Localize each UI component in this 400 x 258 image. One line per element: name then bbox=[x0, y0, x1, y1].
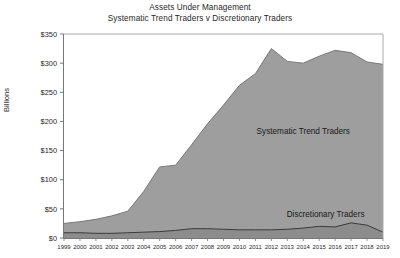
y-tick-label: $250 bbox=[41, 88, 57, 97]
x-tick-label: 2000 bbox=[73, 244, 87, 250]
series-annotation-label: Systematic Trend Traders bbox=[257, 127, 350, 136]
chart-container: Assets Under Management Systematic Trend… bbox=[0, 0, 400, 258]
x-tick-label: 2018 bbox=[360, 244, 374, 250]
x-tick-label: 2010 bbox=[233, 244, 247, 250]
x-tick-label: 2003 bbox=[121, 244, 135, 250]
x-tick-label: 2007 bbox=[185, 244, 199, 250]
x-tick-label: 2005 bbox=[153, 244, 167, 250]
x-tick-label: 2014 bbox=[297, 244, 311, 250]
chart-plot-area: $0$50$100$150$200$250$300$350 1999200020… bbox=[0, 0, 400, 258]
y-tick-label: $0 bbox=[49, 234, 57, 243]
y-tick-label: $300 bbox=[41, 59, 57, 68]
x-tick-label: 2004 bbox=[137, 244, 151, 250]
x-tick-label: 2008 bbox=[201, 244, 215, 250]
y-tick-label: $100 bbox=[41, 175, 57, 184]
x-tick-label: 1999 bbox=[57, 244, 71, 250]
y-tick-label: $350 bbox=[41, 30, 57, 39]
x-tick-label: 2015 bbox=[313, 244, 327, 250]
x-tick-label: 2016 bbox=[328, 244, 342, 250]
x-tick-label: 2012 bbox=[265, 244, 279, 250]
x-tick-label: 2019 bbox=[376, 244, 390, 250]
x-tick-label: 2013 bbox=[281, 244, 295, 250]
x-tick-label: 2006 bbox=[169, 244, 183, 250]
y-tick-label: $150 bbox=[41, 146, 57, 155]
y-axis-ticks: $0$50$100$150$200$250$300$350 bbox=[41, 30, 64, 243]
series-annotation-label: Discretionary Traders bbox=[287, 210, 365, 219]
x-axis-ticks: 1999200020012002200320042005200620072008… bbox=[57, 238, 390, 250]
x-tick-label: 2009 bbox=[217, 244, 231, 250]
y-tick-label: $50 bbox=[45, 205, 57, 214]
x-tick-label: 2011 bbox=[249, 244, 263, 250]
x-tick-label: 2001 bbox=[89, 244, 103, 250]
x-tick-label: 2002 bbox=[105, 244, 119, 250]
y-tick-label: $200 bbox=[41, 117, 57, 126]
x-tick-label: 2017 bbox=[344, 244, 358, 250]
